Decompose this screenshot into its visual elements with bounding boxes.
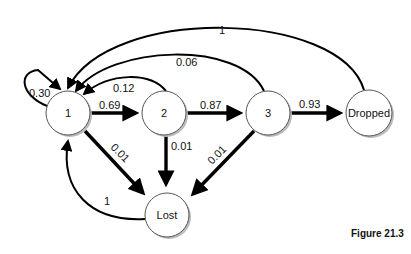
label-1-self-loop: 0.30	[29, 87, 50, 99]
node-dropped-label: Dropped	[348, 107, 390, 119]
label-dropped-to-1: 1	[219, 24, 225, 36]
label-2-to-lost: 0.01	[171, 140, 192, 152]
node-lost: Lost	[145, 193, 191, 239]
edge-1-to-lost	[85, 131, 143, 193]
label-lost-to-1: 1	[104, 195, 110, 207]
label-1-to-2: 0.69	[99, 99, 120, 111]
figure-caption: Figure 21.3	[351, 228, 404, 239]
label-2-to-3: 0.87	[200, 99, 221, 111]
node-1-label: 1	[65, 107, 71, 119]
state-diagram: 1 0.06 0.12 0.30 0.69 0.87 0.93 0.01 0.0…	[0, 0, 411, 254]
node-dropped: Dropped	[346, 90, 394, 138]
label-2-to-1: 0.12	[113, 82, 134, 94]
edge-3-to-lost	[193, 131, 254, 194]
label-3-to-1: 0.06	[176, 56, 197, 68]
label-3-to-dropped: 0.93	[299, 98, 320, 110]
edge-3-to-1	[76, 55, 264, 91]
node-lost-label: Lost	[157, 209, 178, 221]
node-2-label: 2	[161, 107, 167, 119]
node-1: 1	[46, 91, 92, 137]
node-2: 2	[142, 91, 188, 137]
node-3-label: 3	[265, 107, 271, 119]
